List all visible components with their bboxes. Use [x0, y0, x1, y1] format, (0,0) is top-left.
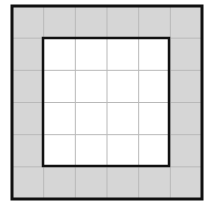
bordered-grid-diagram: [0, 0, 206, 205]
